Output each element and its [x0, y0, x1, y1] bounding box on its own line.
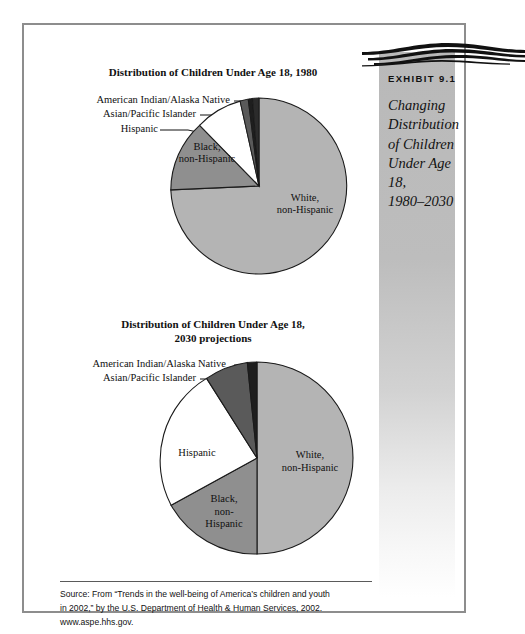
slice-label-white-2030: White, non-Hispanic: [262, 449, 358, 474]
source-line: in 2002,” by the U.S. Department of Heal…: [60, 602, 378, 616]
slice-label-line: non-Hispanic: [159, 153, 255, 165]
source-line: www.aspe.hhs.gov.: [60, 616, 378, 630]
slice-label-white-1980: White, non-Hispanic: [257, 192, 353, 217]
pie-plot-area-1980: American Indian/Alaska Native Asian/Paci…: [48, 79, 378, 284]
slice-label-line: Black,: [159, 141, 255, 153]
slice-label-line: non-: [185, 506, 263, 518]
exhibit-title-line: 1980–2030: [388, 192, 458, 211]
callout-american-indian-2030: American Indian/Alaska Native: [92, 358, 226, 369]
slice-label-line: Hispanic: [159, 447, 235, 459]
chart-title-line: Distribution of Children Under Age 18, 1…: [63, 65, 363, 79]
slice-label-hispanic-2030: Hispanic: [159, 447, 235, 459]
slice-label-line: Black,: [185, 493, 263, 505]
chart-title-line: 2030 projections: [63, 331, 363, 345]
callout-asian-pacific-1980: Asian/Pacific Islander: [103, 108, 196, 119]
exhibit-page-frame: EXHIBIT 9.1 Changing Distribution of Chi…: [22, 23, 466, 613]
source-divider: [60, 581, 372, 582]
pie-chart-1980: Distribution of Children Under Age 18, 1…: [48, 61, 378, 311]
slice-label-black-1980: Black, non-Hispanic: [159, 141, 255, 166]
slice-label-black-2030: Black, non- Hispanic: [185, 493, 263, 530]
pie-plot-area-2030: American Indian/Alaska Native Asian/Paci…: [48, 345, 378, 557]
slice-label-line: Hispanic: [185, 518, 263, 530]
slice-label-line: White,: [262, 449, 358, 461]
exhibit-title-line: Under Age 18,: [388, 154, 458, 193]
chart-title-1980: Distribution of Children Under Age 18, 1…: [63, 61, 363, 79]
source-line: Source: From “Trends in the well-being o…: [60, 588, 378, 602]
pie-chart-2030: Distribution of Children Under Age 18, 2…: [48, 313, 378, 575]
exhibit-number-label: EXHIBIT 9.1: [388, 73, 458, 84]
source-note: Source: From “Trends in the well-being o…: [60, 588, 378, 630]
exhibit-title-line: of Children: [388, 135, 458, 154]
chart-title-line: Distribution of Children Under Age 18,: [63, 317, 363, 331]
wave-swoosh-icon: [362, 41, 525, 67]
exhibit-title-line: Distribution: [388, 115, 458, 134]
callout-american-indian-1980: American Indian/Alaska Native: [96, 94, 230, 105]
callout-asian-pacific-2030: Asian/Pacific Islander: [103, 372, 196, 383]
slice-label-line: White,: [257, 192, 353, 204]
exhibit-title-line: Changing: [388, 96, 458, 115]
exhibit-sidebar-content: EXHIBIT 9.1 Changing Distribution of Chi…: [388, 73, 458, 212]
chart-title-2030: Distribution of Children Under Age 18, 2…: [63, 313, 363, 345]
slice-label-line: non-Hispanic: [257, 204, 353, 216]
callout-hispanic-1980: Hispanic: [121, 123, 158, 134]
pie-slices-1980: [48, 79, 378, 284]
exhibit-title: Changing Distribution of Children Under …: [388, 96, 458, 212]
slice-label-line: non-Hispanic: [262, 462, 358, 474]
